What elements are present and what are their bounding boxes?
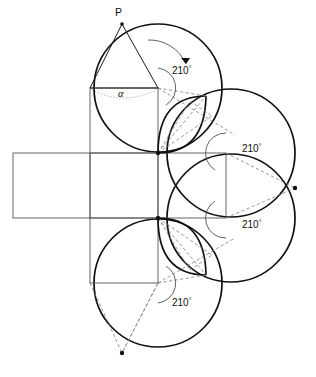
point-corner-upper bbox=[156, 151, 160, 155]
angle-top-left-value: 210 bbox=[172, 65, 189, 76]
dashed-bottom-to-point bbox=[122, 283, 158, 353]
geometry-diagram: P α 210° 210° 210° 210° bbox=[0, 0, 316, 377]
rotation-arrow-head bbox=[181, 58, 190, 64]
alpha-arc bbox=[92, 90, 156, 98]
point-corner-lower bbox=[156, 216, 160, 220]
label-base-angle-alpha: α bbox=[118, 88, 124, 99]
net-face-lower bbox=[90, 218, 158, 283]
angle-top-left-degree: ° bbox=[189, 65, 192, 72]
label-angle-right-upper: 210° bbox=[242, 143, 262, 154]
chord-top bbox=[190, 101, 212, 116]
angle-bottom-left-value: 210 bbox=[172, 297, 189, 308]
svg-text:210°: 210° bbox=[242, 143, 262, 154]
angle-arc-right-upper bbox=[206, 133, 226, 170]
svg-text:210°: 210° bbox=[172, 297, 192, 308]
point-right-meet bbox=[293, 186, 297, 190]
net-face-left bbox=[13, 153, 90, 218]
angle-arc-right-lower bbox=[206, 201, 226, 238]
ray-top-1 bbox=[158, 96, 206, 153]
dashed-right-lower bbox=[226, 188, 295, 218]
ray-bottom-1 bbox=[158, 218, 206, 275]
svg-text:210°: 210° bbox=[242, 219, 262, 230]
triangle-bottom-dashed bbox=[90, 283, 158, 353]
label-angle-top-left: 210° bbox=[172, 65, 192, 76]
angle-bottom-left-degree: ° bbox=[189, 297, 192, 304]
angle-right-lower-value: 210 bbox=[242, 219, 259, 230]
label-apex-p: P bbox=[115, 6, 122, 18]
point-p bbox=[120, 22, 124, 26]
angle-right-upper-degree: ° bbox=[259, 143, 262, 150]
label-angle-bottom-left: 210° bbox=[172, 297, 192, 308]
point-bottom-apex bbox=[120, 351, 124, 355]
net-face-middle bbox=[90, 153, 158, 218]
angle-right-lower-degree: ° bbox=[259, 219, 262, 226]
rotation-arrow-curve bbox=[148, 40, 186, 64]
label-angle-right-lower: 210° bbox=[242, 219, 262, 230]
angle-right-upper-value: 210 bbox=[242, 143, 259, 154]
svg-text:210°: 210° bbox=[172, 65, 192, 76]
